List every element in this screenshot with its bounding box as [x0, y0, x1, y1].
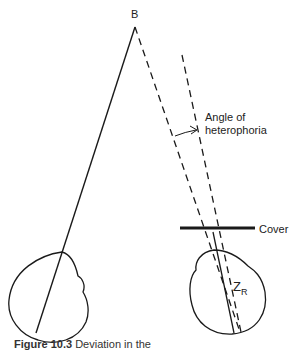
- angle-label-line2: heterophoria: [205, 124, 295, 137]
- z-r-label: ZR: [233, 280, 247, 297]
- z-main: Z: [233, 279, 241, 294]
- angle-label-line1: Angle of: [205, 111, 295, 124]
- caption-text: Deviation in the: [75, 338, 151, 350]
- figure-number: Figure 10.3: [14, 338, 72, 350]
- left-eye-outline: [9, 252, 88, 342]
- left-visual-axis: [36, 27, 135, 333]
- right-eye-outline: [190, 250, 266, 334]
- apex-label: B: [131, 9, 138, 20]
- angle-label: Angle of heterophoria: [205, 111, 295, 137]
- z-sub: R: [241, 287, 248, 297]
- figure-caption: Figure 10.3 Deviation in the: [14, 338, 151, 350]
- cover-label: Cover: [259, 224, 288, 235]
